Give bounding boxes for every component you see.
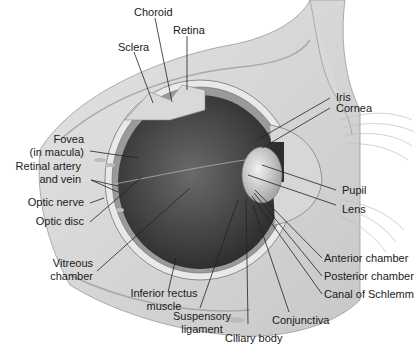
label-lens: Lens <box>342 203 366 216</box>
label-optic-disc: Optic disc <box>0 215 84 228</box>
label-fovea-line1: Fovea <box>0 133 84 146</box>
label-posterior-chamber: Posterior chamber <box>324 270 414 283</box>
label-pupil: Pupil <box>342 184 366 197</box>
label-conjunctiva: Conjunctiva <box>272 314 329 327</box>
label-inferior-rectus: Inferior rectus muscle <box>118 287 210 312</box>
label-retinal-line1: Retinal artery <box>0 160 81 173</box>
label-suspensory-line1: Suspensory <box>170 310 234 323</box>
label-optic-nerve: Optic nerve <box>0 196 84 209</box>
label-fovea-line2: (in macula) <box>0 146 84 159</box>
label-inferior-line1: Inferior rectus <box>118 287 210 300</box>
label-choroid: Choroid <box>134 6 173 19</box>
label-ciliary-body: Ciliary body <box>225 332 282 345</box>
label-retina: Retina <box>173 24 205 37</box>
label-sclera: Sclera <box>118 41 149 54</box>
label-fovea: Fovea (in macula) <box>0 133 84 158</box>
eye-anatomy-diagram: Choroid Retina Sclera Iris Cornea Fovea … <box>0 0 419 356</box>
label-anterior-chamber: Anterior chamber <box>324 252 408 265</box>
label-canal-of-schlemm: Canal of Schlemm <box>324 288 414 301</box>
label-cornea: Cornea <box>336 102 372 115</box>
label-retinal-line2: and vein <box>0 173 81 186</box>
label-retinal-artery-vein: Retinal artery and vein <box>0 160 81 185</box>
label-vitreous-chamber: Vitreous chamber <box>0 257 93 282</box>
label-vitreous-line1: Vitreous <box>0 257 93 270</box>
label-vitreous-line2: chamber <box>0 270 93 283</box>
